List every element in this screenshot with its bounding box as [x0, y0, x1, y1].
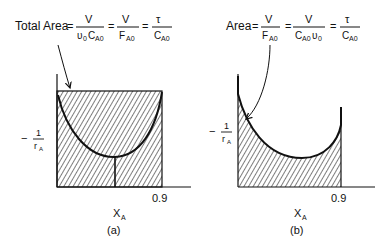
equals-sign-3: = — [330, 20, 336, 32]
fraction2-numerator: V — [122, 13, 130, 25]
panel-a-equation: Total Area = V υ 0 C A0 = V F A0 = τ C A… — [15, 13, 172, 42]
x-axis-label-sub: A — [121, 214, 126, 221]
equals-sign: = — [252, 20, 258, 32]
fraction1-den-nu: υ — [77, 30, 82, 41]
y-label-minus: − — [21, 132, 27, 144]
y-label-den: r — [34, 141, 37, 151]
fraction3-den-sub: A0 — [349, 35, 358, 42]
y-label-numerator: 1 — [224, 121, 229, 131]
panel-b-caption: (b) — [290, 224, 303, 236]
diagram-canvas: Total Area = V υ 0 C A0 = V F A0 = τ C A… — [0, 0, 388, 249]
y-axis-label: − 1 r A — [209, 121, 232, 145]
panel-b-equation: Area = V F A0 = V C A0 υ 0 = τ C A0 — [226, 13, 360, 42]
area-label: Area — [226, 19, 252, 33]
panel-b: Area = V F A0 = V C A0 υ 0 = τ C A0 — [209, 13, 375, 236]
equals-sign: = — [67, 20, 73, 32]
panel-a: Total Area = V υ 0 C A0 = V F A0 = τ C A… — [15, 13, 191, 236]
x-tick-0-9: 0.9 — [152, 192, 167, 204]
y-label-den: r — [222, 134, 225, 144]
fraction1-numerator: V — [265, 13, 273, 25]
equals-sign-2: = — [108, 20, 114, 32]
fraction1-den-nu-sub: 0 — [83, 35, 87, 42]
fraction2-den-sub: A0 — [126, 35, 135, 42]
fraction2-den-f: F — [119, 30, 125, 41]
x-tick-0-9: 0.9 — [331, 192, 346, 204]
shaded-area-under-curve — [238, 94, 341, 187]
fraction2-den-c-sub: A0 — [302, 35, 311, 42]
fraction1-den-sub: A0 — [269, 35, 278, 42]
fraction3-numerator: τ — [156, 13, 161, 25]
fraction3-den-sub: A0 — [161, 35, 170, 42]
x-axis-label: X — [113, 207, 121, 219]
fraction1-den-f: F — [262, 30, 268, 41]
area-pointer-arrow — [246, 45, 270, 119]
x-axis-label: X — [294, 207, 302, 219]
equals-sign-3: = — [142, 20, 148, 32]
fraction2-numerator: V — [305, 13, 313, 25]
y-axis-label: − 1 r A — [21, 128, 44, 152]
x-axis-label-sub: A — [302, 214, 307, 221]
panel-a-caption: (a) — [107, 224, 120, 236]
equals-sign-2: = — [285, 20, 291, 32]
y-label-numerator: 1 — [36, 128, 41, 138]
fraction2-den-nu-sub: 0 — [318, 35, 322, 42]
fraction3-numerator: τ — [345, 13, 350, 25]
y-label-minus: − — [209, 125, 215, 137]
y-label-den-sub: A — [227, 139, 231, 145]
y-label-den-sub: A — [39, 146, 43, 152]
fraction2-den-nu: υ — [312, 30, 317, 41]
fraction1-numerator: V — [85, 13, 93, 25]
area-pointer-arrow — [58, 45, 70, 88]
total-area-label: Total Area — [15, 19, 69, 33]
fraction1-den-c-sub: A0 — [95, 35, 104, 42]
